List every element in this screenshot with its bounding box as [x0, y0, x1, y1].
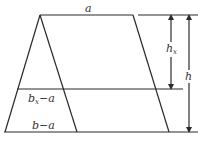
inner-triangle-side: [40, 15, 77, 132]
bottom-width-label: b−a: [32, 120, 55, 131]
section-width-label: bx−a: [28, 93, 55, 106]
diagram-svg: [0, 0, 198, 144]
trapezoid-diagram: a bx−a b−a hx h: [0, 0, 198, 144]
left-side: [5, 15, 40, 132]
top-width-label: a: [85, 3, 92, 14]
right-side: [133, 15, 169, 132]
total-height-label: h: [185, 70, 192, 83]
partial-height-label: hx: [166, 42, 177, 57]
